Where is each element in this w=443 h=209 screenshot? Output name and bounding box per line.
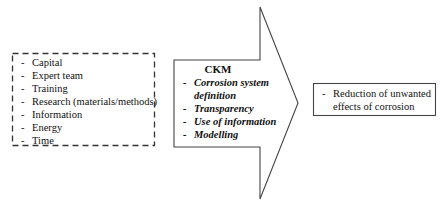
output-line: Reduction of unwanted [333, 87, 431, 100]
input-item: Time [20, 134, 157, 147]
diagram-canvas: Capital Expert team Training Research (m… [0, 0, 443, 209]
ckm-item: Modelling [182, 128, 276, 141]
ckm-item: Corrosion system definition [182, 76, 276, 102]
ckm-item-line: Modelling [194, 128, 276, 141]
output-line: effects of corrosion [333, 100, 431, 113]
ckm-item-line: Transparency [194, 102, 276, 115]
input-item: Research (materials/methods) [20, 95, 157, 108]
input-item: Information [20, 108, 157, 121]
ckm-item: Transparency [182, 102, 276, 115]
input-item: Energy [20, 121, 157, 134]
output-content: Reduction of unwanted effects of corrosi… [321, 87, 431, 113]
ckm-item-line: Use of information [194, 115, 276, 128]
inputs-list: Capital Expert team Training Research (m… [20, 56, 157, 147]
ckm-item-line: Corrosion system [194, 76, 276, 89]
ckm-title: CKM [182, 63, 254, 76]
input-item: Capital [20, 56, 157, 69]
input-item: Expert team [20, 69, 157, 82]
ckm-content: CKM Corrosion system definition Transpar… [182, 63, 276, 141]
input-item: Training [20, 82, 157, 95]
ckm-item-line: definition [194, 89, 276, 102]
ckm-item: Use of information [182, 115, 276, 128]
output-item: Reduction of unwanted effects of corrosi… [321, 87, 431, 113]
